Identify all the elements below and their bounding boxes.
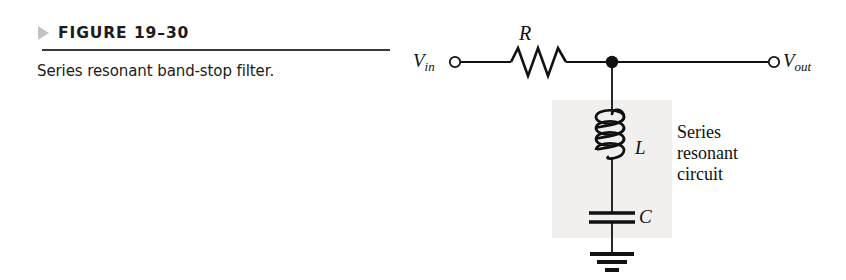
inductor-label: L [635, 137, 646, 159]
figure-caption-block: FIGURE 19–30 Series resonant band-stop f… [36, 22, 396, 80]
figure-header: FIGURE 19–30 [36, 22, 396, 44]
annotation-line-3: circuit [677, 164, 738, 185]
circuit-schematic-svg [400, 0, 846, 280]
ground-icon [590, 254, 634, 270]
capacitor-label: C [639, 206, 652, 228]
input-terminal-label-sub: in [425, 59, 435, 74]
circuit-diagram: Vin Vout R L C Series resonant circuit [400, 0, 846, 280]
input-terminal-label: Vin [413, 50, 435, 75]
triangle-right-icon [38, 26, 49, 40]
annotation-line-2: resonant [677, 143, 738, 164]
annotation-line-1: Series [677, 122, 738, 143]
caption-divider [42, 49, 390, 51]
output-terminal-label-main: V [783, 50, 795, 71]
input-terminal-icon [450, 57, 460, 67]
output-terminal-label: Vout [783, 50, 811, 75]
capacitor-plates-icon [589, 213, 635, 222]
figure-number: FIGURE 19–30 [58, 24, 189, 42]
figure-caption-text: Series resonant band-stop filter. [37, 62, 396, 80]
input-terminal-label-main: V [413, 50, 425, 71]
output-terminal-icon [769, 57, 779, 67]
output-terminal-label-sub: out [795, 59, 812, 74]
resistor-zigzag-icon [511, 48, 566, 76]
resistor-label: R [519, 22, 531, 45]
figure-page: FIGURE 19–30 Series resonant band-stop f… [0, 0, 846, 280]
inductor-coil-icon [596, 110, 624, 159]
series-resonant-annotation: Series resonant circuit [677, 122, 738, 185]
